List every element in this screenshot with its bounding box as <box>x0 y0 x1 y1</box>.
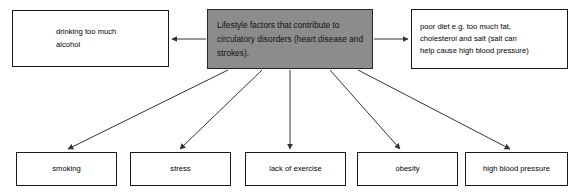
node-lack-of-exercise: lack of exercise <box>245 152 346 186</box>
node-stress-label: stress <box>170 163 190 175</box>
arrow-center-to-blood-pressure <box>358 70 510 149</box>
node-smoking-label: smoking <box>52 163 80 175</box>
node-drinking-alcohol-label: drinking too much alcohol <box>56 26 116 51</box>
node-lifestyle-factors-label: Lifestyle factors that contribute to cir… <box>217 18 366 61</box>
arrow-center-to-stress <box>180 70 262 149</box>
node-poor-diet: poor diet e.g. too much fat, cholesterol… <box>411 9 568 69</box>
arrow-center-to-smoking <box>68 70 228 149</box>
node-poor-diet-label: poor diet e.g. too much fat, cholesterol… <box>420 21 529 58</box>
node-high-blood-pressure-label: high blood pressure <box>483 163 550 175</box>
node-high-blood-pressure: high blood pressure <box>465 152 568 186</box>
node-smoking: smoking <box>16 152 117 186</box>
node-obesity: obesity <box>357 152 458 186</box>
node-lifestyle-factors: Lifestyle factors that contribute to cir… <box>207 9 373 69</box>
node-obesity-label: obesity <box>395 163 419 175</box>
diagram-canvas: drinking too much alcohol Lifestyle fact… <box>0 0 577 195</box>
arrow-center-to-obesity <box>330 70 400 149</box>
node-drinking-alcohol: drinking too much alcohol <box>12 10 169 67</box>
node-stress: stress <box>130 152 231 186</box>
node-lack-of-exercise-label: lack of exercise <box>269 163 322 175</box>
